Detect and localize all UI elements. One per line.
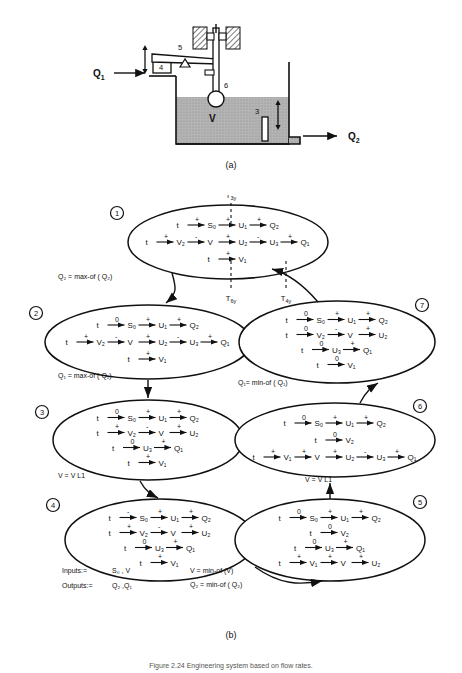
panel-b-state-diagram: 1t+S₀+U₁+Q₂t+V₂-V+U₂-U₃+Q₁t+V₁2t0S₀+U₁+Q… bbox=[0, 195, 462, 650]
state-node-token: S₀ bbox=[315, 419, 324, 428]
state-node-token: V₂ bbox=[140, 529, 148, 538]
transition-sign: + bbox=[158, 508, 162, 515]
dashed-transition-label: T3y bbox=[226, 195, 237, 201]
state-number-3: 3 bbox=[40, 408, 44, 417]
state-node-token: V₁ bbox=[159, 355, 167, 364]
state-node-token: Q₁ bbox=[301, 238, 310, 247]
transition-sign: + bbox=[395, 448, 399, 455]
state-node-token: Q₂ bbox=[379, 316, 388, 325]
state-node-token: V₁ bbox=[310, 559, 318, 568]
transition-sign: 0 bbox=[320, 340, 324, 347]
figure-stage: V Q1 Q2 3 4 bbox=[0, 0, 462, 673]
state-node-token: V₂ bbox=[128, 429, 136, 438]
state-node-token: V₁ bbox=[159, 459, 167, 468]
state-node-token: Q₂ bbox=[190, 321, 199, 330]
transition-sign: + bbox=[271, 448, 275, 455]
state-node-token: V₂ bbox=[317, 331, 325, 340]
transition-sign: 0 bbox=[304, 310, 308, 317]
state-node-token: Q₁ bbox=[186, 544, 195, 553]
state-node-token: U₁ bbox=[348, 316, 357, 325]
state-node-token: V₁ bbox=[171, 559, 179, 568]
transition-sign: + bbox=[158, 553, 162, 560]
legend-outputs-label: Outputs:= bbox=[62, 582, 93, 590]
tank-volume-label: V bbox=[209, 113, 216, 124]
state-node-token: Q₁ bbox=[174, 444, 183, 453]
inflow-label-Q1: Q1 bbox=[93, 68, 105, 81]
state-node-token: U₂ bbox=[159, 338, 168, 347]
transition-sign: + bbox=[328, 508, 332, 515]
transition-label-2-3: Q₁ = max-of ( Q₁) bbox=[58, 372, 112, 380]
transition-sign: + bbox=[366, 310, 370, 317]
state-node-token: U₃ bbox=[190, 338, 199, 347]
state-node-token: Q₁ bbox=[221, 338, 230, 347]
transition-sign: 0 bbox=[131, 438, 135, 445]
state-node-token: U₃ bbox=[143, 444, 152, 453]
state-node-token: V₂ bbox=[177, 238, 185, 247]
transition-label-6-7: Q₁= min-of ( Q₁) bbox=[238, 379, 288, 387]
transition-sign: + bbox=[174, 538, 178, 545]
transition-sign: 0 bbox=[304, 325, 308, 332]
transition-sign: + bbox=[146, 408, 150, 415]
state-number-5: 5 bbox=[418, 498, 422, 507]
transition-sign: + bbox=[364, 414, 368, 421]
transition-sign: + bbox=[335, 310, 339, 317]
transition-sign: + bbox=[351, 340, 355, 347]
state-node-token: Q₂ bbox=[270, 221, 279, 230]
transition-sign: + bbox=[146, 453, 150, 460]
transition-sign: 0 bbox=[115, 316, 119, 323]
transition-sign: + bbox=[288, 233, 292, 240]
state-node-token: Q₂ bbox=[377, 419, 386, 428]
transition-sign: 0 bbox=[333, 431, 337, 438]
state-node-token: U₃ bbox=[270, 238, 279, 247]
state-node-token: Q₂ bbox=[190, 414, 199, 423]
transition-sign: + bbox=[162, 438, 166, 445]
state-node-token: V bbox=[341, 559, 347, 568]
dashed-transition-label: T4y bbox=[281, 294, 292, 304]
transition-sign: + bbox=[177, 423, 181, 430]
state-node-token: S₀ bbox=[310, 514, 319, 523]
state-node-token: U₃ bbox=[155, 544, 164, 553]
transition-sign: + bbox=[226, 250, 230, 257]
transition-sign: + bbox=[302, 448, 306, 455]
transition-sign: 0 bbox=[302, 414, 306, 421]
state-node-token: U₁ bbox=[159, 414, 168, 423]
outflow-label-Q2: Q2 bbox=[348, 131, 360, 144]
legend-inputs-label: Inputs:= bbox=[62, 567, 87, 575]
transition-sign: + bbox=[189, 523, 193, 530]
transition-sign: 0 bbox=[313, 538, 317, 545]
transition-sign: 0 bbox=[115, 408, 119, 415]
part-label-6: 6 bbox=[224, 81, 228, 90]
state-node-token: V bbox=[315, 453, 321, 462]
state-node-token: U₁ bbox=[171, 514, 180, 523]
transition-sign: + bbox=[127, 523, 131, 530]
panel-a-schematic: V Q1 Q2 3 4 bbox=[0, 0, 462, 200]
figure-caption: Figure 2.24 Engineering system based on … bbox=[0, 662, 462, 669]
transition-sign: + bbox=[189, 508, 193, 515]
transition-sign: 0 bbox=[328, 523, 332, 530]
state-node-token: Q₁ bbox=[408, 453, 417, 462]
state-node-token: V₁ bbox=[284, 453, 292, 462]
transition-sign: + bbox=[164, 233, 168, 240]
part-label-5: 5 bbox=[178, 43, 182, 52]
state-node-token: U₁ bbox=[346, 419, 355, 428]
state-node-token: Q₂ bbox=[202, 514, 211, 523]
transition-sign: + bbox=[226, 216, 230, 223]
transition-sign: + bbox=[177, 408, 181, 415]
transition-sign: + bbox=[146, 316, 150, 323]
transition-sign: + bbox=[333, 414, 337, 421]
state-node-token: U₂ bbox=[202, 529, 211, 538]
transition-sign: 0 bbox=[335, 355, 339, 362]
transition-sign: 0 bbox=[143, 538, 147, 545]
edge-3-to-4 bbox=[140, 481, 158, 498]
transition-sign: + bbox=[297, 553, 301, 560]
state-node-token: U₁ bbox=[341, 514, 350, 523]
panel-b-caption: (b) bbox=[0, 630, 462, 640]
dashed-transition-label: T6y bbox=[226, 294, 237, 304]
transition-label-3-4: V = V L1 bbox=[58, 472, 85, 479]
part-label-4: 4 bbox=[159, 63, 163, 72]
state-node-token: U₂ bbox=[346, 453, 355, 462]
transition-sign: + bbox=[177, 316, 181, 323]
transition-sign: 0 bbox=[297, 508, 301, 515]
transition-sign: + bbox=[328, 553, 332, 560]
legend-outputs-value: Q₂ ,Q₁ bbox=[112, 582, 132, 590]
